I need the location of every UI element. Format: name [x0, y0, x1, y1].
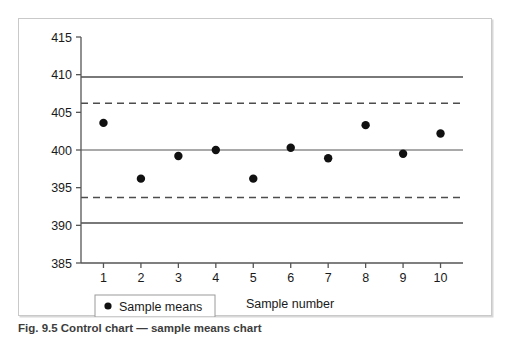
y-tick-label: 400 [51, 144, 72, 158]
data-point[interactable] [436, 129, 444, 137]
data-point[interactable] [287, 144, 295, 152]
data-point[interactable] [137, 174, 145, 182]
x-tick-label: 9 [400, 271, 407, 285]
control-chart: 38539039540040541041512345678910Sample n… [19, 19, 493, 317]
data-point[interactable] [174, 152, 182, 160]
y-tick-label: 410 [51, 68, 72, 82]
y-tick-label: 390 [51, 219, 72, 233]
data-point[interactable] [324, 154, 332, 162]
x-tick-label: 1 [100, 271, 107, 285]
x-axis-title: Sample number [246, 297, 334, 311]
y-tick-label: 385 [51, 257, 72, 271]
figure-frame: 38539039540040541041512345678910Sample n… [18, 18, 492, 316]
data-point[interactable] [212, 146, 220, 154]
y-tick-label: 415 [51, 31, 72, 45]
x-tick-label: 8 [362, 271, 369, 285]
x-tick-label: 4 [212, 271, 219, 285]
data-point[interactable] [99, 119, 107, 127]
x-tick-label: 6 [287, 271, 294, 285]
data-point[interactable] [399, 150, 407, 158]
data-point[interactable] [361, 121, 369, 129]
y-tick-label: 395 [51, 181, 72, 195]
x-tick-label: 3 [175, 271, 182, 285]
legend-label: Sample means [119, 300, 202, 314]
data-point[interactable] [249, 174, 257, 182]
x-tick-label: 10 [434, 271, 448, 285]
x-tick-label: 7 [325, 271, 332, 285]
chart-canvas: 38539039540040541041512345678910Sample n… [19, 19, 493, 317]
figure-caption: Fig. 9.5 Control chart — sample means ch… [18, 322, 498, 334]
legend-marker-icon [104, 302, 111, 309]
x-tick-label: 5 [250, 271, 257, 285]
y-tick-label: 405 [51, 106, 72, 120]
x-tick-label: 2 [137, 271, 144, 285]
